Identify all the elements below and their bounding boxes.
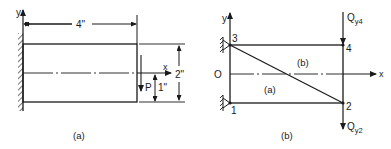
node-label-1: 1 (231, 105, 237, 116)
offset-dimension-label: 1" (158, 82, 168, 93)
node-label-4: 4 (346, 43, 352, 54)
force-label-qy4: Qy4 (347, 12, 363, 26)
x-axis-label-a: x (163, 62, 168, 72)
origin-label: O (214, 69, 222, 80)
node-label-2: 2 (346, 101, 352, 112)
height-dimension-label: 2" (175, 69, 185, 80)
length-dimension-label: 4" (76, 19, 86, 30)
diagram-svg: y 4" x P 1" 2" (a) y (0, 0, 391, 149)
y-axis-label-b: y (222, 13, 227, 24)
force-label-qy2-sub: y2 (355, 126, 363, 135)
fixed-wall (18, 33, 23, 111)
element-label-a: (a) (264, 84, 276, 95)
node-label-3: 3 (232, 33, 238, 44)
diagram-canvas: y 4" x P 1" 2" (a) y (0, 0, 391, 149)
force-label-qy2: Qy2 (347, 121, 363, 135)
figure-b: y x O 3 4 1 2 (b) (a) (214, 12, 384, 141)
caption-b: (b) (281, 130, 293, 141)
y-axis-label-a: y (16, 7, 21, 18)
element-label-b: (b) (297, 57, 309, 68)
load-label-p: P (145, 82, 152, 93)
force-label-qy4-sub: y4 (355, 17, 363, 26)
x-axis-label-b: x (379, 69, 384, 79)
caption-a: (a) (73, 130, 85, 141)
figure-a: y 4" x P 1" 2" (a) (16, 7, 185, 141)
